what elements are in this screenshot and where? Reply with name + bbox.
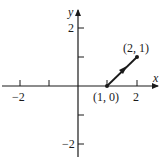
start-point-label: (1, 0) — [93, 90, 119, 104]
end-point-label: (2, 1) — [123, 41, 149, 55]
x-axis-label: x — [152, 71, 159, 85]
y-tick-label-neg2: −2 — [62, 137, 75, 151]
x-tick-label-neg2: −2 — [12, 90, 25, 104]
vector-end-point — [135, 55, 139, 59]
y-tick-label-2: 2 — [68, 21, 74, 35]
coordinate-plane: y x −2 2 2 −2 (1, 0) (2, 1) — [0, 0, 164, 161]
vector-start-point — [105, 84, 109, 88]
x-tick-label-2: 2 — [133, 90, 139, 104]
y-axis-label: y — [67, 5, 74, 19]
